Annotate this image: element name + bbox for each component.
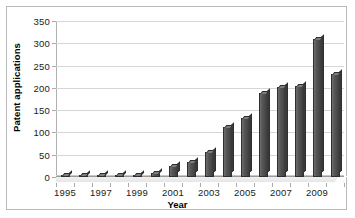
bar[interactable]	[331, 74, 340, 177]
y-tick-label: 150	[16, 105, 50, 116]
bar-slot	[110, 21, 128, 177]
x-tick-mark	[326, 183, 327, 187]
bar-slot	[290, 21, 308, 177]
x-tick-label: 1995	[54, 187, 76, 198]
bar[interactable]	[313, 39, 322, 177]
y-tick-label: 250	[16, 60, 50, 71]
x-tick-mark	[254, 183, 255, 187]
y-tick-mark	[52, 132, 56, 133]
y-tick-label: 300	[16, 38, 50, 49]
bar-slot	[218, 21, 236, 177]
y-tick-label: 200	[16, 82, 50, 93]
y-tick-label: 350	[16, 16, 50, 27]
plot-area	[56, 21, 344, 182]
x-tick-label: 1999	[126, 187, 148, 198]
y-tick-mark	[52, 21, 56, 22]
bar-slot	[164, 21, 182, 177]
y-tick-mark	[52, 88, 56, 89]
bar-slot	[308, 21, 326, 177]
x-tick-mark	[182, 183, 183, 187]
bar-slot	[326, 21, 344, 177]
bar[interactable]	[259, 93, 268, 177]
x-tick-label: 2003	[198, 187, 220, 198]
bar-slot	[56, 21, 74, 177]
bar[interactable]	[241, 118, 250, 177]
x-tick-label: 2001	[162, 187, 184, 198]
bar[interactable]	[151, 173, 160, 177]
bar-slot	[128, 21, 146, 177]
bar[interactable]	[169, 166, 178, 177]
x-tick-mark	[110, 183, 111, 187]
y-tick-mark	[52, 177, 56, 178]
y-tick-label: 0	[16, 172, 50, 183]
chart-frame: Patent applications 05010015020025030035…	[6, 6, 347, 210]
bar[interactable]	[115, 175, 124, 177]
x-tick-mark	[74, 183, 75, 187]
x-axis-title: Year	[7, 199, 348, 210]
bar[interactable]	[223, 127, 232, 177]
x-tick-mark	[344, 183, 345, 187]
y-tick-label: 100	[16, 127, 50, 138]
bar-slot	[254, 21, 272, 177]
x-tick-label: 2005	[234, 187, 256, 198]
y-tick-mark	[52, 155, 56, 156]
y-tick-mark	[52, 43, 56, 44]
bar-slot	[200, 21, 218, 177]
x-tick-mark	[290, 183, 291, 187]
bar[interactable]	[277, 87, 286, 177]
bar-slot	[146, 21, 164, 177]
x-tick-label: 2007	[270, 187, 292, 198]
bar[interactable]	[187, 162, 196, 177]
bar[interactable]	[97, 175, 106, 177]
bar-slot	[272, 21, 290, 177]
x-tick-label: 2009	[306, 187, 328, 198]
bar[interactable]	[133, 175, 142, 177]
x-tick-mark	[146, 183, 147, 187]
bar-slot	[74, 21, 92, 177]
y-tick-label: 50	[16, 149, 50, 160]
y-tick-mark	[52, 110, 56, 111]
bar-slot	[92, 21, 110, 177]
y-tick-mark	[52, 66, 56, 67]
x-tick-label: 1997	[90, 187, 112, 198]
bar-slot	[182, 21, 200, 177]
bar-slot	[236, 21, 254, 177]
bar[interactable]	[79, 175, 88, 177]
x-tick-mark	[218, 183, 219, 187]
bar[interactable]	[61, 175, 70, 177]
bar[interactable]	[295, 86, 304, 177]
bar[interactable]	[205, 152, 214, 177]
x-axis-title-text: Year	[167, 199, 187, 210]
